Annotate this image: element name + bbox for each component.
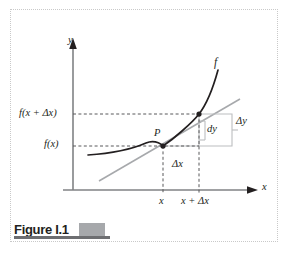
point-p-label: P — [154, 128, 160, 139]
y-tick-label-f-x-plus-delta-x: f(x + Δx) — [19, 108, 57, 119]
figure-container: y x f(x + Δx) f(x) x x + Δx dy Δy Δx P f… — [0, 0, 290, 254]
function-curve-label: f — [214, 57, 217, 69]
dy-label: dy — [207, 124, 217, 135]
delta-y-label: Δy — [236, 116, 247, 127]
figure-caption-text: Figure I.1 — [14, 222, 69, 237]
y-axis-label: y — [68, 35, 73, 46]
figure-caption: Figure I.1 — [14, 219, 110, 237]
secant-line — [99, 99, 240, 181]
horizontal-guide-lines — [73, 114, 199, 146]
x-tick-label-x: x — [159, 196, 164, 207]
x-tick-label-x-plus-delta-x: x + Δx — [181, 196, 209, 207]
x-axis-label: x — [262, 182, 267, 193]
figure-caption-swatch — [79, 223, 105, 236]
point-Q-marker — [196, 111, 201, 116]
plot-canvas — [0, 0, 290, 254]
point-P-marker — [160, 143, 165, 148]
figure-caption-rule — [14, 236, 110, 239]
x-axis — [63, 186, 258, 194]
delta-x-label: Δx — [172, 159, 183, 170]
y-tick-label-f-x: f(x) — [44, 139, 59, 150]
